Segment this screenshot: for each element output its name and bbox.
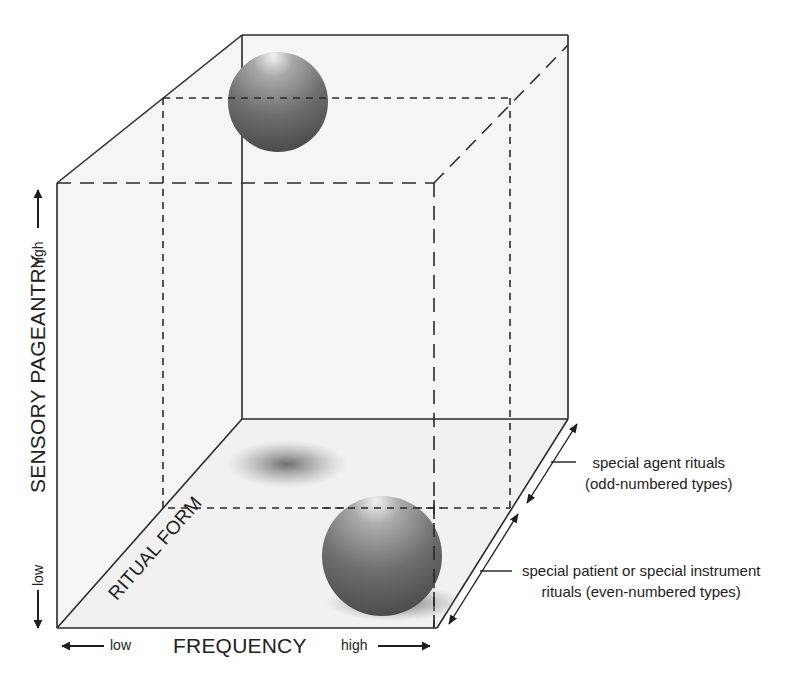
high-pageantry-sphere	[228, 52, 328, 152]
diagram-stage: high SENSORY PAGEANTRY low low FREQUENCY…	[0, 0, 809, 678]
even-annotation-line1: special patient or special instrument	[522, 560, 760, 581]
low-pageantry-sphere	[322, 496, 442, 616]
horizontal-axis-title: FREQUENCY	[173, 634, 307, 658]
horizontal-axis-high-label: high	[341, 637, 367, 653]
vertical-axis-low-label: low	[30, 565, 46, 586]
even-annotation-line2: rituals (even-numbered types)	[522, 581, 760, 602]
floor-shadow	[227, 440, 347, 488]
clipped-caption-remnant	[230, 0, 550, 6]
horizontal-axis-low-label: low	[110, 637, 131, 653]
vertical-axis-title: SENSORY PAGEANTRY	[26, 254, 50, 493]
odd-annotation-line1: special agent rituals	[585, 452, 733, 473]
odd-types-annotation: special agent rituals (odd-numbered type…	[585, 452, 733, 494]
even-types-annotation: special patient or special instrument ri…	[522, 560, 760, 602]
odd-annotation-line2: (odd-numbered types)	[585, 473, 733, 494]
